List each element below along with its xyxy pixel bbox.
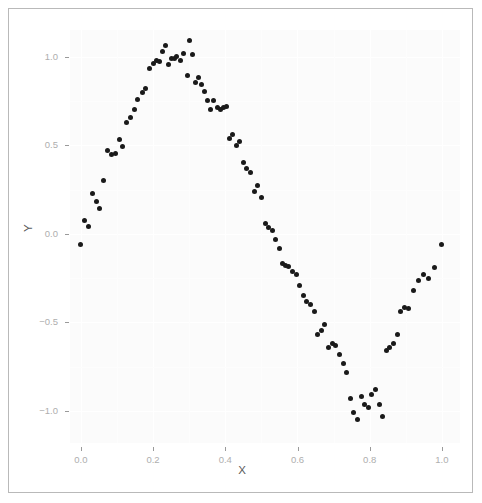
x-tick-mark (298, 447, 299, 451)
data-point (391, 341, 396, 346)
data-point (416, 278, 421, 283)
x-tick-mark (81, 447, 82, 451)
data-point (366, 405, 371, 410)
data-point (86, 224, 91, 229)
data-point (315, 332, 320, 337)
data-point (373, 387, 378, 392)
gridline-minor-vertical (117, 30, 118, 443)
gridline-minor-horizontal (70, 278, 460, 279)
data-point (90, 191, 95, 196)
gridline-major-horizontal (70, 322, 460, 323)
data-point (432, 265, 437, 270)
data-point (128, 115, 133, 120)
data-point (120, 144, 125, 149)
data-point (277, 246, 282, 251)
data-point (297, 283, 302, 288)
data-point (193, 80, 198, 85)
x-axis-title-label: X (238, 464, 246, 476)
data-point (82, 218, 87, 223)
gridline-major-vertical (370, 30, 371, 443)
data-point (411, 288, 416, 293)
data-point (237, 139, 242, 144)
figure-root: 0.00.20.40.60.81.0 1.00.50.0−0.5−1.0 X Y (0, 0, 482, 503)
data-point (185, 73, 190, 78)
data-point (348, 396, 353, 401)
data-point (333, 343, 338, 348)
data-point (124, 120, 129, 125)
gridline-minor-vertical (261, 30, 262, 443)
y-tick-label: 0.5 (18, 139, 58, 150)
x-tick-mark (442, 447, 443, 451)
data-point (380, 414, 385, 419)
data-point (439, 242, 444, 247)
data-point (163, 43, 168, 48)
x-tick-mark (225, 447, 226, 451)
data-point (211, 98, 216, 103)
gridline-major-horizontal (70, 57, 460, 58)
data-point (286, 264, 291, 269)
data-point (337, 352, 342, 357)
data-point (97, 206, 102, 211)
data-point (241, 160, 246, 165)
data-point (301, 293, 306, 298)
y-tick-mark (65, 322, 69, 323)
data-point (270, 228, 275, 233)
data-point (395, 332, 400, 337)
data-point (143, 86, 148, 91)
plot-panel (70, 30, 460, 443)
data-point (78, 242, 83, 247)
gridline-minor-horizontal (70, 101, 460, 102)
x-tick-mark (153, 447, 154, 451)
gridline-major-horizontal (70, 234, 460, 235)
data-point (132, 107, 137, 112)
gridline-minor-vertical (334, 30, 335, 443)
gridline-minor-horizontal (70, 190, 460, 191)
gridline-major-vertical (442, 30, 443, 443)
data-point (259, 195, 264, 200)
gridline-minor-vertical (406, 30, 407, 443)
data-point (351, 410, 356, 415)
data-point (273, 237, 278, 242)
gridline-major-vertical (81, 30, 82, 443)
data-point (377, 402, 382, 407)
data-point (308, 302, 313, 307)
data-point (113, 151, 118, 156)
data-point (202, 89, 207, 94)
y-tick-label: −0.5 (18, 316, 58, 327)
gridline-major-horizontal (70, 145, 460, 146)
data-point (312, 309, 317, 314)
data-point (426, 276, 431, 281)
data-point (369, 392, 374, 397)
data-point (322, 322, 327, 327)
y-tick-mark (65, 145, 69, 146)
gridline-minor-vertical (189, 30, 190, 443)
x-axis-title: X (0, 464, 482, 476)
gridline-major-horizontal (70, 411, 460, 412)
y-axis-title-label: Y (22, 224, 34, 232)
data-point (355, 417, 360, 422)
data-point (101, 178, 106, 183)
data-point (344, 370, 349, 375)
data-point (248, 170, 253, 175)
y-tick-label: −1.0 (18, 405, 58, 416)
data-point (94, 199, 99, 204)
gridline-major-vertical (225, 30, 226, 443)
gridline-minor-horizontal (70, 367, 460, 368)
data-point (178, 58, 183, 63)
data-point (166, 62, 171, 67)
gridline-major-vertical (153, 30, 154, 443)
gridline-major-vertical (297, 30, 298, 443)
data-point (252, 189, 257, 194)
data-point (147, 66, 152, 71)
y-tick-mark (65, 57, 69, 58)
data-point (196, 75, 201, 80)
data-point (398, 309, 403, 314)
y-axis-title: Y (22, 224, 34, 232)
data-point (160, 49, 165, 54)
data-point (181, 51, 186, 56)
y-tick-mark (65, 411, 69, 412)
data-point (406, 306, 411, 311)
data-point (187, 38, 192, 43)
data-point (230, 132, 235, 137)
data-point (157, 59, 162, 64)
